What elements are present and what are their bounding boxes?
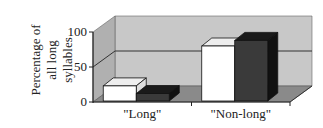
y-tick-label: 50 (74, 59, 87, 74)
bar-front (103, 86, 136, 101)
x-category-label: "Long" (123, 106, 161, 121)
bar-chart: 050100"Long""Non-long" (0, 0, 323, 128)
bar-front (235, 40, 268, 101)
y-tick-label: 0 (81, 94, 88, 109)
bar-side (268, 32, 278, 101)
bar-front (136, 94, 169, 101)
y-tick-label: 100 (68, 24, 88, 39)
bar-front (202, 46, 235, 101)
x-category-label: "Non-long" (211, 106, 271, 121)
